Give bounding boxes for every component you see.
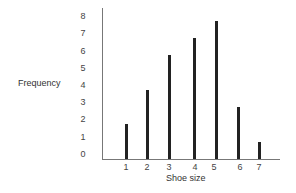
x-tick-1: 1 (121, 162, 131, 172)
y-tick-5: 5 (78, 63, 88, 73)
bar (125, 124, 128, 159)
x-tick-7: 7 (254, 162, 264, 172)
x-tick-3: 3 (164, 162, 174, 172)
x-axis-line (102, 159, 280, 160)
y-axis-line (102, 8, 103, 160)
bar (146, 90, 149, 159)
y-tick-3: 3 (78, 97, 88, 107)
y-tick-2: 2 (78, 114, 88, 124)
x-axis-label: Shoe size (166, 173, 206, 183)
bar (237, 107, 240, 159)
y-axis-label: Frequency (18, 78, 61, 88)
y-tick-0: 0 (78, 149, 88, 159)
y-tick-6: 6 (78, 46, 88, 56)
x-tick-4: 4 (190, 162, 200, 172)
y-tick-8: 8 (78, 11, 88, 21)
y-tick-7: 7 (78, 28, 88, 38)
y-tick-4: 4 (78, 80, 88, 90)
bar (258, 142, 261, 159)
x-tick-6: 6 (235, 162, 245, 172)
x-tick-5: 5 (209, 162, 219, 172)
bar (193, 38, 196, 159)
x-tick-2: 2 (142, 162, 152, 172)
y-tick-1: 1 (78, 132, 88, 142)
bar (168, 55, 171, 159)
bar (215, 21, 218, 159)
